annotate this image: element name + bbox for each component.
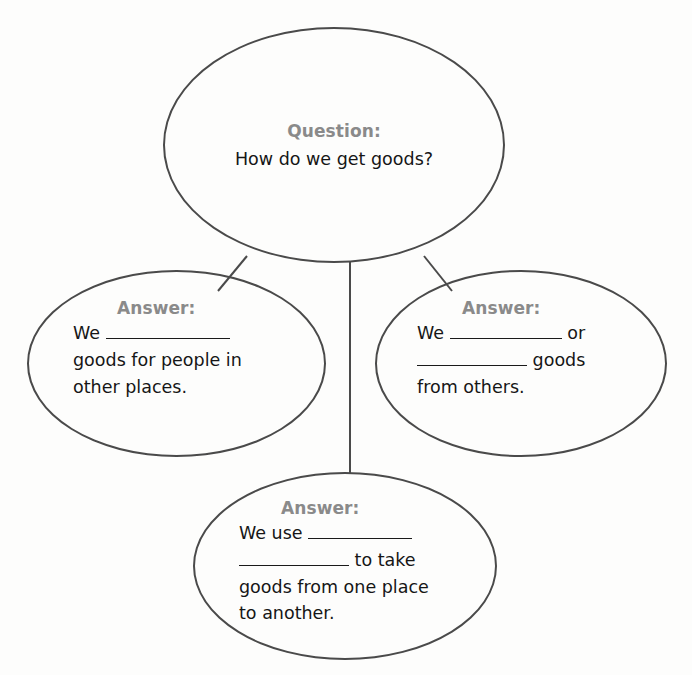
answer-right-blank-1[interactable] xyxy=(450,338,562,339)
answer-bottom-content: Answer: We use to take goods from one pl… xyxy=(195,498,495,627)
answer-bottom-line-3: goods from one place xyxy=(239,574,481,601)
answer-left-line-3: other places. xyxy=(73,374,308,401)
question-oval: Question: How do we get goods? xyxy=(163,27,505,263)
question-heading: Question: xyxy=(165,121,503,141)
answer-bottom-line-1: We use xyxy=(239,520,481,547)
answer-bottom-line-2-suffix: to take xyxy=(355,550,416,570)
graphic-organizer: Question: How do we get goods? Answer: W… xyxy=(0,0,692,675)
answer-left-line-1: We xyxy=(73,320,308,347)
answer-left-line-1-prefix: We xyxy=(73,323,100,343)
answer-bottom-line-4: to another. xyxy=(239,600,481,627)
answer-left-content: Answer: We goods for people in other pla… xyxy=(29,298,324,400)
answer-left-line-2: goods for people in xyxy=(73,347,308,374)
answer-oval-left: Answer: We goods for people in other pla… xyxy=(27,270,326,457)
answer-left-blank-1[interactable] xyxy=(106,338,230,339)
answer-bottom-blank-2[interactable] xyxy=(239,565,349,566)
answer-bottom-heading: Answer: xyxy=(239,498,481,518)
question-oval-content: Question: How do we get goods? xyxy=(165,121,503,173)
answer-right-content: Answer: We or goods from others. xyxy=(377,298,665,400)
answer-right-line-3: from others. xyxy=(417,374,651,401)
answer-bottom-blank-1[interactable] xyxy=(308,538,412,539)
answer-right-blank-2[interactable] xyxy=(417,365,527,366)
answer-oval-bottom: Answer: We use to take goods from one pl… xyxy=(193,472,497,660)
answer-right-heading: Answer: xyxy=(417,298,651,318)
answer-right-line-1-prefix: We xyxy=(417,323,444,343)
answer-right-line-2: goods xyxy=(417,347,651,374)
answer-bottom-line-2: to take xyxy=(239,547,481,574)
answer-right-line-2-suffix: goods xyxy=(533,350,586,370)
answer-oval-right: Answer: We or goods from others. xyxy=(375,270,667,457)
question-text: How do we get goods? xyxy=(165,146,503,173)
answer-right-line-1-suffix: or xyxy=(567,323,585,343)
answer-left-heading: Answer: xyxy=(73,298,308,318)
answer-bottom-line-1-prefix: We use xyxy=(239,523,303,543)
answer-right-line-1: We or xyxy=(417,320,651,347)
